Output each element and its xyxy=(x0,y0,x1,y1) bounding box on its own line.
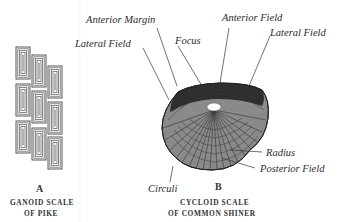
label-radius: Radius xyxy=(266,148,295,159)
figure-a-letter: A xyxy=(36,184,43,194)
cycloid-scale-drawing xyxy=(162,83,268,170)
ganoid-scale-drawing xyxy=(16,47,62,169)
figure-b-caption-line2: OF COMMON SHINER xyxy=(168,210,256,217)
label-anterior-field: Anterior Field xyxy=(222,13,282,24)
label-circuli: Circuli xyxy=(148,184,177,195)
focus-spot xyxy=(207,103,221,111)
figure-b-caption-line1: CYCLOID SCALE xyxy=(180,199,249,206)
label-posterior-field: Posterior Field xyxy=(260,164,324,175)
label-anterior-margin: Anterior Margin xyxy=(86,15,155,26)
label-lateral-field-left: Lateral Field xyxy=(75,39,131,50)
figure-b-letter: B xyxy=(215,182,222,192)
figure-a-caption-line1: GANOID SCALE xyxy=(10,199,74,206)
label-focus: Focus xyxy=(175,36,201,47)
figure-a-caption-line2: OF PIKE xyxy=(24,210,58,217)
label-lateral-field-right: Lateral Field xyxy=(270,28,326,39)
